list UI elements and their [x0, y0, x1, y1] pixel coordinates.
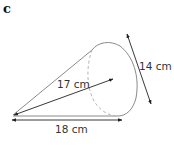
- dimension-base-diameter: 14 cm: [127, 34, 172, 104]
- cone-base-front-arc: [92, 43, 137, 116]
- dimension-length: 18 cm: [12, 120, 122, 135]
- base-diameter-label: 14 cm: [139, 60, 172, 72]
- cone-diagram: c 17 cm 14 cm 18 cm: [0, 0, 174, 152]
- length-label: 18 cm: [55, 123, 88, 135]
- dimension-slant-height: 17 cm: [14, 78, 113, 115]
- slant-height-label: 17 cm: [57, 78, 90, 90]
- part-label: c: [3, 1, 11, 16]
